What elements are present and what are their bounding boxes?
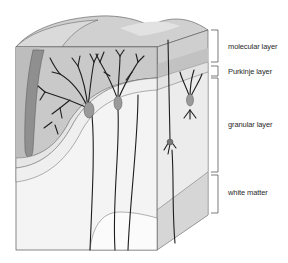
bracket-white-matter bbox=[211, 175, 218, 213]
side-face bbox=[157, 30, 208, 250]
label-white-matter: white matter bbox=[228, 188, 268, 197]
layer-brackets bbox=[211, 30, 218, 213]
bracket-granular bbox=[211, 78, 218, 172]
label-molecular-layer: molecular layer bbox=[228, 42, 277, 51]
cerebellum-diagram bbox=[0, 0, 288, 263]
label-granular-layer: granular layer bbox=[228, 120, 272, 129]
label-purkinje-layer: Purkinje layer bbox=[228, 67, 272, 76]
bracket-purkinje bbox=[211, 66, 218, 76]
bracket-molecular bbox=[211, 30, 218, 62]
